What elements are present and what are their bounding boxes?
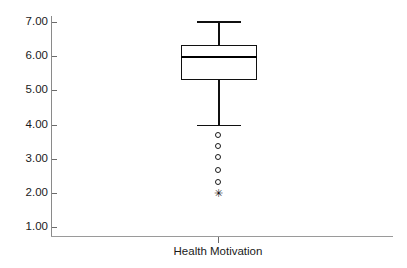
extreme-outlier-point: ✳: [211, 188, 225, 199]
x-axis-category-label: Health Motivation: [128, 245, 308, 257]
lower-whisker-cap: [197, 125, 241, 127]
y-axis-label-2: 2.00: [0, 186, 48, 198]
outlier-point: [215, 132, 221, 138]
y-axis-tick-6: [52, 56, 57, 57]
y-axis-tick-7: [52, 22, 57, 23]
outlier-point: [215, 179, 221, 185]
y-axis-tick-1: [52, 227, 57, 228]
y-axis-label-6: 6.00: [0, 49, 48, 61]
x-axis-line: [51, 236, 393, 237]
median-line: [181, 56, 257, 59]
outlier-point: [215, 143, 221, 149]
y-axis-label-4: 4.00: [0, 118, 48, 130]
y-axis-label-1: 1.00: [0, 220, 48, 232]
y-axis-tick-3: [52, 159, 57, 160]
upper-whisker-stem: [218, 21, 220, 46]
y-axis-label-3: 3.00: [0, 152, 48, 164]
outlier-point: [215, 154, 221, 160]
y-axis-tick-5: [52, 90, 57, 91]
y-axis-label-7: 7.00: [0, 15, 48, 27]
y-axis-line: [51, 16, 52, 236]
lower-whisker-stem: [218, 80, 220, 125]
y-axis-tick-4: [52, 125, 57, 126]
x-axis-tick-health-motivation: [218, 237, 219, 243]
y-axis-tick-2: [52, 193, 57, 194]
box-interquartile-range: [181, 45, 257, 80]
boxplot-chart: 7.00 6.00 5.00 4.00 3.00 2.00 1.00 Healt…: [0, 0, 407, 268]
y-axis-label-5: 5.00: [0, 83, 48, 95]
outlier-point: [215, 167, 221, 173]
